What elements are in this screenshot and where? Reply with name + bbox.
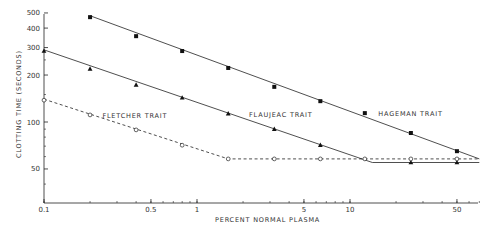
open-circle-marker-icon xyxy=(226,157,230,161)
x-tick-label: 5 xyxy=(302,206,306,214)
x-tick-label: 0.1 xyxy=(38,206,49,214)
series-annotation: FLAUJEAC TRAIT xyxy=(249,111,312,119)
y-tick-label: 100 xyxy=(27,119,40,127)
x-tick-label: 50 xyxy=(452,206,461,214)
series-layer xyxy=(42,15,480,164)
square-marker-icon xyxy=(318,99,322,103)
x-tick-label: 1 xyxy=(195,206,199,214)
y-tick-label: 300 xyxy=(27,44,40,52)
series-line xyxy=(44,50,479,163)
x-axis-title: PERCENT NORMAL PLASMA xyxy=(215,216,320,224)
square-marker-icon xyxy=(226,66,230,70)
clotting-time-chart: 0.10.515105050100200300400500 FLETCHER T… xyxy=(0,0,496,229)
open-circle-marker-icon xyxy=(42,98,46,102)
y-tick-label: 50 xyxy=(31,165,40,173)
open-circle-marker-icon xyxy=(134,128,138,132)
x-tick-label: 10 xyxy=(346,206,355,214)
labels-layer: FLETCHER TRAITFLAUJEAC TRAITHAGEMAN TRAI… xyxy=(102,110,442,120)
open-circle-marker-icon xyxy=(363,157,367,161)
series-fletcher-trait xyxy=(42,98,479,161)
square-marker-icon xyxy=(180,49,184,53)
series-annotation: FLETCHER TRAIT xyxy=(102,112,167,120)
y-tick-label: 500 xyxy=(27,9,40,17)
open-circle-marker-icon xyxy=(272,157,276,161)
open-circle-marker-icon xyxy=(180,143,184,147)
series-line xyxy=(90,16,479,159)
open-circle-marker-icon xyxy=(318,157,322,161)
open-circle-marker-icon xyxy=(455,157,459,161)
y-tick-label: 400 xyxy=(27,25,40,33)
series-flaujeac-trait xyxy=(42,48,480,164)
square-marker-icon xyxy=(409,131,413,135)
series-line xyxy=(44,99,479,159)
triangle-marker-icon xyxy=(318,143,323,147)
y-axis-title: CLOTTING TIME (SECONDS) xyxy=(15,50,23,158)
series-hageman-trait xyxy=(88,15,479,159)
triangle-marker-icon xyxy=(272,127,277,131)
x-tick-label: 0.5 xyxy=(145,206,156,214)
square-marker-icon xyxy=(88,15,92,19)
y-tick-label: 200 xyxy=(27,72,40,80)
square-marker-icon xyxy=(272,85,276,89)
triangle-marker-icon xyxy=(134,82,139,86)
square-marker-icon xyxy=(134,34,138,38)
triangle-marker-icon xyxy=(180,95,185,99)
triangle-marker-icon xyxy=(88,66,93,70)
square-marker-icon xyxy=(363,111,367,115)
series-annotation: HAGEMAN TRAIT xyxy=(378,110,442,118)
square-marker-icon xyxy=(455,149,459,153)
open-circle-marker-icon xyxy=(88,113,92,117)
open-circle-marker-icon xyxy=(409,157,413,161)
